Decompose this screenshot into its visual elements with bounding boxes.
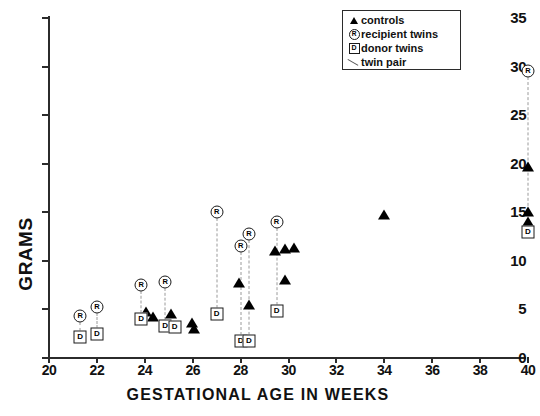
recipient-twin-point: R	[270, 216, 283, 229]
recipient-twin-point: R	[234, 240, 247, 253]
twin-pair-connector	[276, 228, 277, 305]
y-axis-title: GRAMS	[15, 206, 37, 302]
recipient-twin-point: R	[74, 310, 87, 323]
control-point	[147, 312, 159, 322]
twin-pair-connector	[240, 252, 241, 334]
legend-label-donor-twins: donor twins	[361, 42, 423, 54]
x-tick-label: 30	[272, 362, 306, 378]
donor-twin-point: D	[270, 305, 283, 318]
legend-item-recipient-twins: R recipient twins	[347, 27, 460, 41]
x-axis-title: GESTATIONAL AGE IN WEEKS	[48, 386, 468, 404]
recipient-twin-point: R	[522, 65, 535, 78]
y-tick-label: 5	[490, 300, 526, 317]
legend-item-controls: controls	[347, 13, 460, 27]
legend-label-recipient-twins: recipient twins	[361, 28, 438, 40]
recipient-twin-point: R	[135, 279, 148, 292]
donor-twin-point: D	[90, 327, 103, 340]
control-point	[165, 309, 177, 319]
x-tick-label: 38	[463, 362, 497, 378]
x-tick-label: 32	[319, 362, 353, 378]
recipient-twin-point: R	[159, 276, 172, 289]
recipient-twin-point: R	[210, 206, 223, 219]
control-point	[522, 161, 534, 171]
control-point	[279, 275, 291, 285]
control-point	[288, 243, 300, 253]
x-tick-label: 34	[367, 362, 401, 378]
x-tick-label: 36	[415, 362, 449, 378]
y-tick-label: 25	[490, 106, 526, 123]
donor-twin-point: D	[210, 308, 223, 321]
circled-r-icon: R	[347, 29, 361, 40]
donor-twin-point: D	[242, 334, 255, 347]
recipient-twin-point: R	[90, 300, 103, 313]
x-tick-label: 24	[128, 362, 162, 378]
twin-pair-connector	[96, 313, 97, 328]
control-point	[522, 207, 534, 217]
donor-twin-point: D	[168, 320, 181, 333]
y-tick-label: 10	[490, 252, 526, 269]
boxed-d-icon: D	[347, 43, 361, 54]
y-tick-label: 20	[490, 155, 526, 172]
x-tick-label: 22	[80, 362, 114, 378]
y-tick	[42, 114, 49, 116]
control-point	[378, 210, 390, 220]
legend-label-controls: controls	[361, 14, 404, 26]
x-tick-label: 20	[32, 362, 66, 378]
dashed-connector-icon	[347, 58, 361, 66]
control-point	[233, 278, 245, 288]
legend-item-twin-pair: twin pair	[347, 55, 460, 69]
donor-twin-point: D	[74, 330, 87, 343]
x-tick-label: 26	[176, 362, 210, 378]
donor-twin-point: D	[522, 225, 535, 238]
filled-triangle-icon	[347, 17, 361, 24]
y-tick	[42, 260, 49, 262]
y-tick	[42, 66, 49, 68]
x-tick-label: 40	[511, 362, 540, 378]
x-tick-label: 28	[224, 362, 258, 378]
y-tick-label: 15	[490, 203, 526, 220]
control-point	[188, 323, 200, 333]
y-tick	[42, 308, 49, 310]
y-tick	[42, 17, 49, 19]
legend-item-donor-twins: D donor twins	[347, 41, 460, 55]
twin-pair-connector	[528, 77, 529, 225]
y-tick	[42, 163, 49, 165]
donor-twin-point: D	[135, 313, 148, 326]
y-tick	[42, 211, 49, 213]
legend-label-twin-pair: twin pair	[361, 56, 406, 68]
legend: controls R recipient twins D donor twins…	[342, 10, 461, 70]
twin-pair-connector	[216, 218, 217, 308]
recipient-twin-point: R	[242, 227, 255, 240]
y-tick-label: 35	[490, 9, 526, 26]
twin-pair-connector	[248, 240, 249, 335]
control-point	[243, 299, 255, 309]
